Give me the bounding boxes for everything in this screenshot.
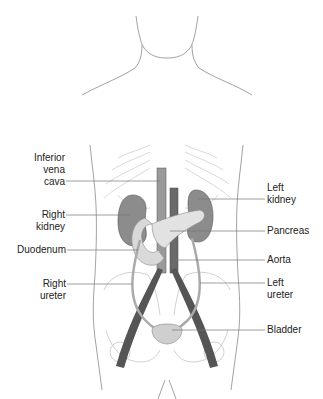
label-left-kidney: Left kidney: [267, 182, 296, 206]
label-right-ureter: Right ureter: [40, 278, 66, 302]
label-line: Inferior: [34, 152, 65, 164]
label-line: kidney: [267, 194, 296, 206]
label-line: kidney: [36, 221, 65, 233]
label-line: ureter: [40, 290, 66, 302]
label-line: ureter: [267, 289, 293, 301]
label-left-ureter: Left ureter: [267, 277, 293, 301]
label-line: Left: [267, 277, 293, 289]
label-line: vena: [34, 164, 65, 176]
neck-left: [82, 45, 142, 95]
torso-left: [90, 145, 102, 390]
label-inferior-vena-cava: Inferior vena cava: [34, 152, 65, 188]
label-line: Right: [36, 209, 65, 221]
iliac-left: [116, 268, 163, 368]
label-line: Right: [40, 278, 66, 290]
label-line: cava: [34, 176, 65, 188]
label-right-kidney: Right kidney: [36, 209, 65, 233]
label-line: Bladder: [267, 324, 301, 336]
label-aorta: Aorta: [267, 254, 291, 266]
label-pancreas: Pancreas: [267, 225, 309, 237]
label-duodenum: Duodenum: [17, 244, 66, 256]
label-line: Left: [267, 182, 296, 194]
head-outline: [136, 16, 198, 58]
label-line: Aorta: [267, 254, 291, 266]
torso-right: [231, 145, 243, 390]
groin-line: [158, 380, 176, 399]
neck-right: [192, 45, 252, 95]
label-line: Pancreas: [267, 225, 309, 237]
bladder-shape: [152, 324, 182, 344]
label-line: Duodenum: [17, 244, 66, 256]
label-bladder: Bladder: [267, 324, 301, 336]
